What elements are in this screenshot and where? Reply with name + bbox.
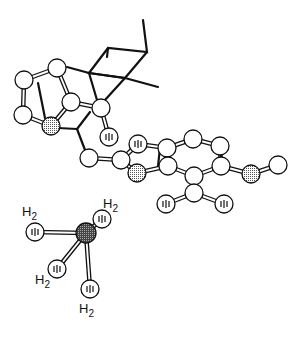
atom-plain xyxy=(185,184,203,202)
atom-plain xyxy=(269,156,287,174)
atom-striped xyxy=(26,223,44,241)
atom-plain xyxy=(211,137,229,155)
atom-dotted xyxy=(42,117,60,135)
h2-label: H2 xyxy=(22,204,37,222)
atoms xyxy=(14,59,287,298)
atom-metal xyxy=(76,223,96,243)
atom-plain xyxy=(185,167,203,185)
atom-plain xyxy=(15,71,33,89)
atom-striped xyxy=(100,128,118,146)
atom-striped xyxy=(48,260,66,278)
atom-striped xyxy=(215,195,233,213)
atom-striped xyxy=(81,280,99,298)
atom-plain xyxy=(80,149,98,167)
atom-dotted xyxy=(242,165,260,183)
atom-plain xyxy=(14,106,32,124)
atom-striped xyxy=(157,195,175,213)
atom-plain xyxy=(159,157,177,175)
atom-plain xyxy=(212,157,230,175)
atom-plain xyxy=(48,59,66,77)
atom-plain xyxy=(62,93,80,111)
molecule-diagram: H2H2H2H2 xyxy=(0,0,303,339)
h2-label: H2 xyxy=(35,272,50,290)
atom-striped xyxy=(93,210,111,228)
bonds xyxy=(21,66,278,289)
atom-plain xyxy=(184,130,202,148)
atom-plain xyxy=(158,139,176,157)
atom-plain xyxy=(92,99,110,117)
atom-dotted xyxy=(128,164,146,182)
h2-label: H2 xyxy=(79,301,94,319)
atom-striped xyxy=(129,135,147,153)
atom-plain xyxy=(112,151,130,169)
